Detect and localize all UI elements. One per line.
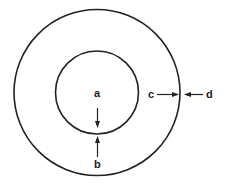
label-a: a	[94, 87, 101, 99]
concentric-circles-diagram: a b c d	[0, 0, 229, 186]
arrow-c-right	[157, 92, 179, 97]
arrow-b-up	[95, 136, 100, 157]
arrow-d-left	[184, 92, 203, 97]
arrow-a-down	[95, 108, 100, 128]
label-d: d	[206, 88, 213, 100]
label-b: b	[94, 158, 101, 170]
label-c: c	[148, 88, 154, 100]
